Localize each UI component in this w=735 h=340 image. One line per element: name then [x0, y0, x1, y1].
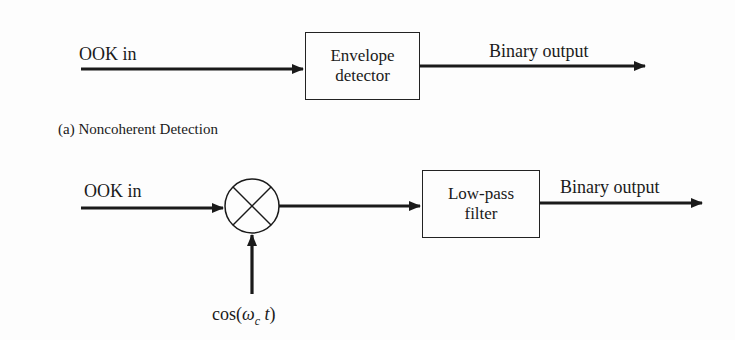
output-label-b: Binary output: [560, 178, 660, 196]
low-pass-filter-block: Low-pass filter: [422, 170, 540, 238]
envelope-detector-block: Envelope detector: [305, 32, 420, 100]
caption-a: (a) Noncoherent Detection: [58, 121, 218, 138]
block-b-line2: filter: [464, 204, 497, 224]
block-a-line2: detector: [335, 66, 390, 86]
close-paren: ): [270, 304, 276, 324]
input-label-a: OOK in: [79, 45, 137, 63]
block-b-line1: Low-pass: [448, 184, 514, 204]
output-label-a: Binary output: [489, 42, 589, 60]
carrier-subscript: c: [255, 314, 260, 328]
cos-text: cos(: [212, 304, 242, 324]
diagram-canvas: OOK in Envelope detector Binary output (…: [0, 0, 735, 340]
block-a-line1: Envelope: [330, 46, 394, 66]
omega-symbol: ω: [242, 304, 255, 324]
input-label-b: OOK in: [84, 182, 142, 200]
oscillator-label: cos(ωc t): [212, 304, 276, 329]
mixer-icon: [225, 179, 279, 233]
